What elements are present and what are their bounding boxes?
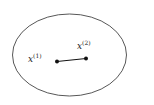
label-point-2: x(2) — [77, 39, 91, 51]
segment — [57, 59, 86, 62]
diagram-canvas: x(1) x(2) — [0, 0, 154, 105]
point-2 — [84, 57, 88, 61]
label-point-1: x(1) — [28, 52, 42, 64]
point-1 — [55, 60, 59, 64]
